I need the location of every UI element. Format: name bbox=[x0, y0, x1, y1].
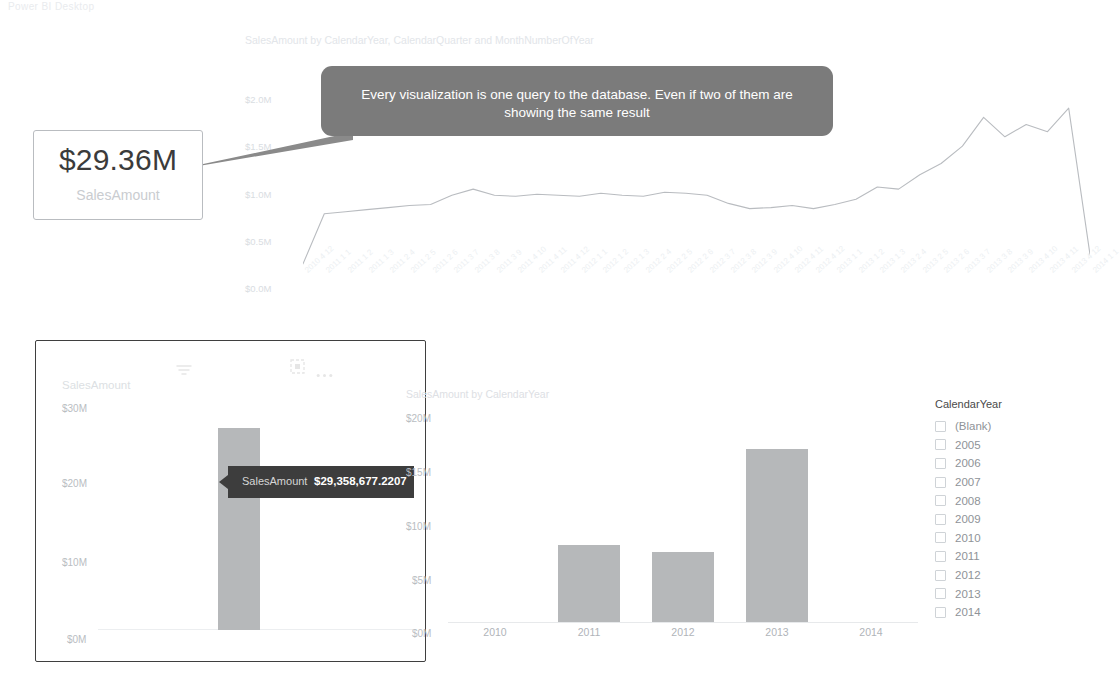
column-bar[interactable] bbox=[558, 545, 620, 622]
col-y-tick-15m: $15M bbox=[406, 467, 431, 478]
slicer-item-label: (Blank) bbox=[955, 420, 991, 432]
checkbox-icon[interactable] bbox=[935, 439, 946, 450]
slicer-item-label: 2009 bbox=[955, 513, 981, 525]
column-x-tick: 2010 bbox=[465, 626, 525, 638]
line-y-tick-1_0m: $1.0M bbox=[245, 189, 271, 200]
calendar-year-slicer[interactable]: CalendarYear (Blank)20052006200720082009… bbox=[935, 398, 1045, 622]
line-y-tick-0_0m: $0.0M bbox=[245, 283, 271, 294]
slicer-item-label: 2007 bbox=[955, 476, 981, 488]
line-y-tick-1_5m: $1.5M bbox=[245, 141, 271, 152]
slicer-item[interactable]: 2007 bbox=[935, 473, 1045, 492]
left-y-tick-10m: $10M bbox=[62, 557, 87, 568]
slicer-item[interactable]: 2008 bbox=[935, 491, 1045, 510]
slicer-item-list[interactable]: (Blank)200520062007200820092010201120122… bbox=[935, 417, 1045, 622]
app-title-strip: Power BI Desktop bbox=[8, 1, 228, 13]
left-y-tick-30m: $30M bbox=[62, 403, 87, 414]
column-x-tick: 2013 bbox=[747, 626, 807, 638]
left-y-tick-0m: $0M bbox=[67, 634, 86, 645]
checkbox-icon[interactable] bbox=[935, 495, 946, 506]
column-x-tick: 2011 bbox=[559, 626, 619, 638]
col-y-tick-10m: $10M bbox=[406, 521, 431, 532]
left-y-tick-20m: $20M bbox=[62, 478, 87, 489]
more-options-icon[interactable] bbox=[316, 364, 333, 382]
callout-text: Every visualization is one query to the … bbox=[347, 86, 807, 122]
checkbox-icon[interactable] bbox=[935, 532, 946, 543]
tooltip-label: SalesAmount bbox=[242, 475, 307, 487]
card-label: SalesAmount bbox=[34, 187, 202, 203]
tooltip-value: $29,358,677.2207 bbox=[314, 475, 407, 487]
line-y-tick-2_0m: $2.0M bbox=[245, 94, 271, 105]
column-chart-title: SalesAmount by CalendarYear bbox=[406, 388, 549, 400]
checkbox-icon[interactable] bbox=[935, 477, 946, 488]
slicer-item[interactable]: 2009 bbox=[935, 510, 1045, 529]
focus-mode-icon[interactable] bbox=[290, 359, 305, 378]
slicer-item[interactable]: 2012 bbox=[935, 566, 1045, 585]
card-value: $29.36M bbox=[34, 143, 202, 177]
left-visual-title: SalesAmount bbox=[62, 379, 130, 391]
line-y-tick-0_5m: $0.5M bbox=[245, 236, 271, 247]
slicer-title: CalendarYear bbox=[935, 398, 1045, 410]
slicer-item-label: 2012 bbox=[955, 569, 981, 581]
slicer-item-label: 2013 bbox=[955, 588, 981, 600]
col-y-tick-20m: $20M bbox=[406, 413, 431, 424]
bar-tooltip: SalesAmount $29,358,677.2207 bbox=[228, 466, 414, 498]
checkbox-icon[interactable] bbox=[935, 514, 946, 525]
column-chart-axis-line bbox=[448, 622, 918, 623]
filter-icon[interactable] bbox=[176, 362, 192, 380]
slicer-item[interactable]: 2014 bbox=[935, 603, 1045, 622]
checkbox-icon[interactable] bbox=[935, 551, 946, 562]
line-chart-x-axis: 2010 4 122011 1 12011 1 22011 1 32011 2 … bbox=[297, 264, 1090, 306]
slicer-item-label: 2010 bbox=[955, 532, 981, 544]
slicer-item-label: 2005 bbox=[955, 439, 981, 451]
slicer-item-label: 2008 bbox=[955, 495, 981, 507]
slicer-item[interactable]: (Blank) bbox=[935, 417, 1045, 436]
column-bar[interactable] bbox=[652, 552, 714, 622]
slicer-item[interactable]: 2011 bbox=[935, 547, 1045, 566]
col-y-tick-0m: $0M bbox=[412, 628, 431, 639]
visual-header-icons bbox=[176, 359, 376, 377]
line-chart-title: SalesAmount by CalendarYear, CalendarQua… bbox=[245, 34, 594, 46]
checkbox-icon[interactable] bbox=[935, 458, 946, 469]
slicer-item[interactable]: 2006 bbox=[935, 454, 1045, 473]
slicer-item[interactable]: 2005 bbox=[935, 436, 1045, 455]
column-bar[interactable] bbox=[746, 449, 808, 622]
slicer-item-label: 2006 bbox=[955, 457, 981, 469]
checkbox-icon[interactable] bbox=[935, 421, 946, 432]
slicer-item-label: 2014 bbox=[955, 606, 981, 618]
slicer-item[interactable]: 2010 bbox=[935, 529, 1045, 548]
left-visual-bar[interactable] bbox=[218, 428, 260, 630]
sales-by-year-column-visual[interactable]: SalesAmount by CalendarYear $20M $15M $1… bbox=[406, 388, 926, 653]
checkbox-icon[interactable] bbox=[935, 588, 946, 599]
slicer-item-label: 2011 bbox=[955, 550, 980, 562]
column-chart-plot-area[interactable] bbox=[448, 404, 926, 622]
checkbox-icon[interactable] bbox=[935, 607, 946, 618]
callout-bubble: Every visualization is one query to the … bbox=[321, 66, 833, 136]
card-visual[interactable]: $29.36M SalesAmount bbox=[33, 130, 203, 220]
slicer-item[interactable]: 2013 bbox=[935, 584, 1045, 603]
col-y-tick-5m: $5M bbox=[412, 575, 431, 586]
column-x-tick: 2014 bbox=[841, 626, 901, 638]
checkbox-icon[interactable] bbox=[935, 570, 946, 581]
sales-amount-bar-visual[interactable]: SalesAmount $30M $20M $10M $0M bbox=[35, 340, 426, 662]
column-x-tick: 2012 bbox=[653, 626, 713, 638]
